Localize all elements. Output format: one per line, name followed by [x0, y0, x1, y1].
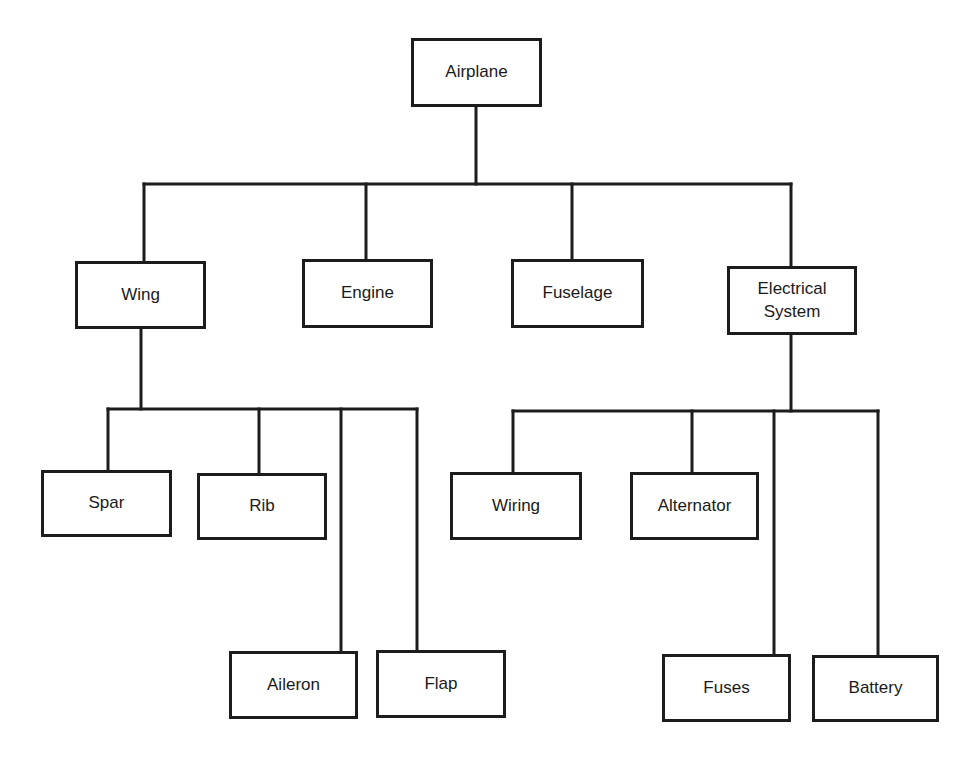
node-label: Aileron [267, 674, 320, 696]
node-wing: Wing [75, 261, 206, 329]
node-electrical-system: Electrical System [727, 266, 857, 335]
node-label: Fuselage [543, 282, 613, 304]
node-rib: Rib [197, 473, 327, 540]
node-label: Alternator [658, 495, 732, 517]
node-fuselage: Fuselage [511, 259, 644, 328]
node-label: Airplane [445, 61, 507, 83]
node-label: Spar [89, 492, 125, 514]
node-label: Battery [849, 677, 903, 699]
node-flap: Flap [376, 650, 506, 718]
node-battery: Battery [812, 655, 939, 722]
node-alternator: Alternator [630, 472, 759, 540]
node-fuses: Fuses [662, 654, 791, 722]
node-label: Fuses [703, 677, 749, 699]
node-label: Wiring [492, 495, 540, 517]
node-spar: Spar [41, 470, 172, 537]
node-airplane: Airplane [411, 38, 542, 107]
node-engine: Engine [302, 259, 433, 328]
node-aileron: Aileron [229, 651, 358, 719]
connector-lines [0, 0, 978, 763]
node-wiring: Wiring [450, 472, 582, 540]
node-label: Flap [424, 673, 457, 695]
node-label: Electrical System [758, 278, 827, 322]
node-label: Wing [121, 284, 160, 306]
node-label: Engine [341, 282, 394, 304]
node-label: Rib [249, 495, 275, 517]
